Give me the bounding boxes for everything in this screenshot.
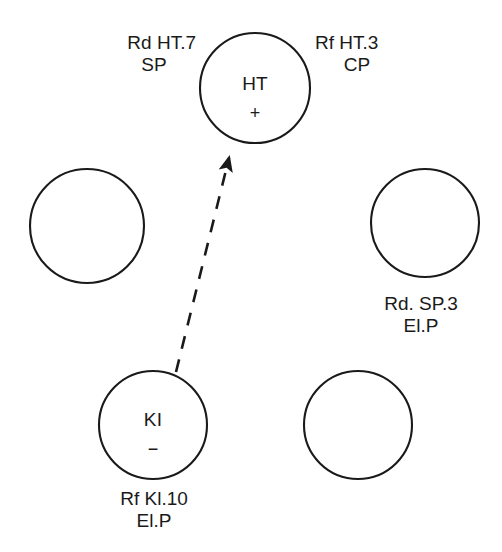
node-ht-sign: + — [205, 104, 305, 122]
annotation-rd-sp3-elp: Rd. SP.3 El.P — [367, 293, 475, 338]
node-ki-sign: − — [103, 440, 203, 458]
node-ki-label: KI — [103, 410, 203, 429]
node-right-middle-circle[interactable] — [371, 169, 479, 277]
node-ht-sign-text: + — [250, 103, 261, 123]
node-ki-sign-text: − — [148, 439, 159, 459]
annotation-rf-ht3-cp-line1: Rf HT.3 — [315, 32, 399, 54]
edge-layer — [176, 158, 229, 372]
annotation-rf-ki10-elp-line2: El.P — [99, 510, 209, 532]
node-circles — [30, 33, 479, 479]
node-ht-label: HT — [205, 74, 305, 93]
annotation-rd-sp3-elp-line1: Rd. SP.3 — [367, 293, 475, 315]
annotation-rf-ki10-elp: Rf Kl.10 El.P — [99, 488, 209, 533]
annotation-rd-ht7-sp-line1: Rd HT.7 — [112, 32, 196, 54]
annotation-rf-ki10-elp-line1: Rf Kl.10 — [99, 488, 209, 510]
node-bottom-right-circle[interactable] — [304, 371, 412, 479]
annotation-rd-sp3-elp-line2: El.P — [367, 315, 475, 337]
annotation-rd-ht7-sp-line2: SP — [112, 54, 196, 76]
node-ht-label-text: HT — [242, 73, 268, 94]
node-ki-label-text: KI — [144, 409, 162, 430]
diagram-canvas: HT + KI − Rd HT.7 SP Rf HT.3 CP Rd. SP.3… — [0, 0, 502, 552]
node-left-middle-circle[interactable] — [30, 169, 144, 283]
dashed-arrow-ki-to-ht[interactable] — [176, 158, 229, 372]
annotation-rf-ht3-cp: Rf HT.3 CP — [315, 32, 399, 77]
annotation-rf-ht3-cp-line2: CP — [315, 54, 399, 76]
annotation-rd-ht7-sp: Rd HT.7 SP — [112, 32, 196, 77]
